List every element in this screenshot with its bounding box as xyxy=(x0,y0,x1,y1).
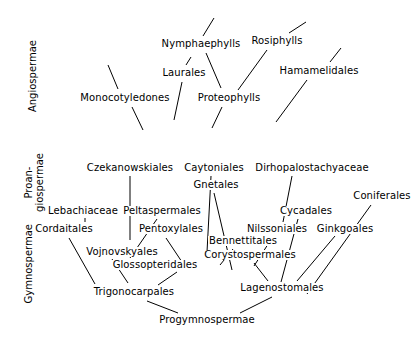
tree-branch-lines xyxy=(0,0,419,348)
taxon-label-lebachiaceae: Lebachiaceae xyxy=(47,206,119,216)
taxon-label-lagenostomales: Lagenostomales xyxy=(239,283,324,293)
taxon-label-coniferales: Coniferales xyxy=(352,191,411,201)
taxon-label-bennettitales: Bennettitales xyxy=(208,236,278,246)
branch-hamamelidales-up xyxy=(330,48,341,62)
taxon-label-progymnospermae: Progymnospermae xyxy=(158,315,256,325)
branch-corystospermales-down xyxy=(254,263,268,281)
taxon-label-czekanowskiales: Czekanowskiales xyxy=(86,163,174,173)
group-label-angiospermae: Angiospermae xyxy=(28,40,39,112)
branch-ginkgoales-down xyxy=(297,236,335,281)
group-label-proangiospermae: Proan-giospermae xyxy=(24,143,45,223)
branch-coniferales-down xyxy=(307,205,371,294)
taxon-label-nymphaephylls: Nymphaephylls xyxy=(161,39,242,49)
group-label-proangiospermae-line1: Proan- xyxy=(24,143,35,223)
taxon-label-dirhopalostachyaceae: Dirhopalostachyaceae xyxy=(254,163,369,173)
branch-monocotyledones-down xyxy=(132,107,143,130)
group-label-proangiospermae-line2: giospermae xyxy=(34,143,45,223)
taxon-label-trigonocarpales: Trigonocarpales xyxy=(93,287,175,297)
phylogenetic-diagram: AngiospermaeProan-giospermaeGymnospermae… xyxy=(0,0,419,348)
taxon-label-corystospermales: Corystospermales xyxy=(203,250,297,260)
taxon-label-hamamelidales: Hamamelidales xyxy=(279,66,360,76)
branch-nymphaephylls-up xyxy=(203,18,214,36)
taxon-label-cycadales: Cycadales xyxy=(279,206,333,216)
branch-lagenostomales-down xyxy=(240,297,272,313)
taxon-label-cordaitales: Cordaitales xyxy=(34,224,94,234)
taxon-label-ginkgoales: Ginkgoales xyxy=(316,224,374,234)
branch-hamamelidales-down xyxy=(276,80,307,122)
taxon-label-monocotyledones: Monocotyledones xyxy=(79,93,170,103)
taxon-label-proteophylls: Proteophylls xyxy=(197,93,262,103)
taxon-label-peltaspermales: Peltaspermales xyxy=(122,206,202,216)
taxon-label-laurales: Laurales xyxy=(161,68,206,78)
taxon-label-pentoxylales: Pentoxylales xyxy=(138,224,204,234)
branch-laurales-down xyxy=(174,82,182,120)
branch-monocotyledones-up xyxy=(108,65,118,89)
branch-glossopteridales-down xyxy=(158,272,177,285)
taxon-label-nilssoniales: Nilssoniales xyxy=(246,224,308,234)
branch-laurales-up xyxy=(186,57,191,65)
branch-cordaitales-down xyxy=(69,238,95,284)
group-label-gymnospermae: Gymnospermae xyxy=(24,224,35,304)
branch-trigonocarpales-down xyxy=(147,301,178,313)
taxon-label-rosiphylls: Rosiphylls xyxy=(251,36,304,46)
taxon-label-vojnovskyales: Vojnovskyales xyxy=(85,247,158,257)
branch-rosiphylls-up xyxy=(289,22,306,33)
taxon-label-caytoniales: Caytoniales xyxy=(183,163,245,173)
branch-nymphaephylls-down xyxy=(206,53,221,88)
branch-proteophylls-down xyxy=(212,107,222,128)
taxon-label-glossopteridales: Glossopteridales xyxy=(112,260,199,270)
taxon-label-gnetales: Gnetales xyxy=(192,180,239,190)
branch-rosiphylls-down xyxy=(238,50,267,90)
